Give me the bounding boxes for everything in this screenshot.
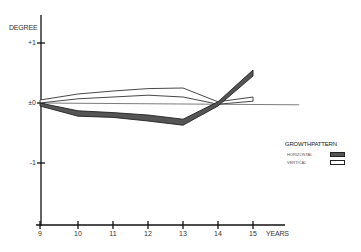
y-tick-label-minus1: -1 <box>18 159 36 166</box>
legend-label-vertical: VERTICAL <box>287 160 307 165</box>
legend-swatch-vertical <box>330 160 345 165</box>
x-axis-label: YEARS <box>266 230 289 237</box>
x-tick-label-15: 15 <box>249 230 257 237</box>
legend-label-horizontal: HORIZONTAL <box>287 152 312 157</box>
y-tick-label-plus1: +1 <box>18 39 36 46</box>
chart-canvas <box>0 0 361 252</box>
y-tick-label-zero: ±0 <box>18 99 36 106</box>
x-tick-label-12: 12 <box>144 230 152 237</box>
legend-swatch-horizontal <box>330 152 345 157</box>
legend-title: GROWTHPATTERN <box>285 141 337 147</box>
y-axis-label: DEGREE <box>9 24 37 31</box>
x-tick-label-10: 10 <box>74 230 82 237</box>
baseline-line <box>40 103 299 105</box>
x-tick-label-11: 11 <box>109 230 116 237</box>
x-tick-label-13: 13 <box>179 230 187 237</box>
series-layer <box>40 70 299 125</box>
x-tick-label-9: 9 <box>38 230 42 237</box>
x-tick-label-14: 14 <box>214 230 222 237</box>
